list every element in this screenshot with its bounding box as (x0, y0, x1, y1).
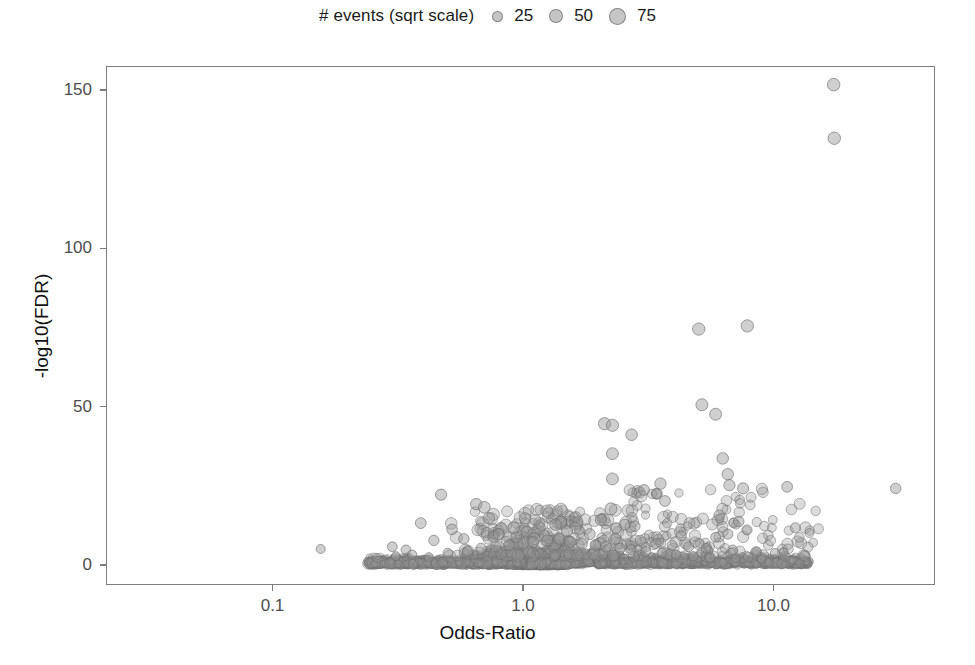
data-point (811, 506, 820, 515)
data-point (738, 483, 749, 494)
data-point (733, 516, 743, 526)
data-point (610, 534, 620, 544)
data-point (590, 540, 601, 551)
data-point (443, 548, 452, 557)
data-point (710, 408, 722, 420)
y-axis-tick (100, 406, 106, 407)
x-axis-tick-label: 1.0 (511, 596, 535, 616)
data-point (615, 543, 625, 553)
data-point (518, 538, 529, 549)
data-point (723, 529, 733, 539)
data-point (828, 132, 840, 144)
data-point (705, 484, 715, 494)
data-point (391, 552, 400, 561)
data-point (705, 553, 714, 562)
data-point (372, 553, 381, 562)
data-point (760, 521, 770, 531)
x-axis-tick (272, 585, 273, 591)
data-point (624, 484, 635, 495)
data-point (408, 559, 417, 568)
data-point (660, 496, 671, 507)
data-point (639, 485, 650, 496)
data-point (565, 536, 576, 547)
data-point (459, 534, 469, 544)
data-point (711, 532, 721, 542)
data-point (827, 78, 840, 91)
data-point (606, 419, 618, 431)
y-axis-tick-label: 50 (26, 397, 92, 417)
data-point (724, 480, 735, 491)
data-point (684, 542, 694, 552)
scatter-plot: 050100150 -log10(FDR) 0.11.010.0 Odds-Ra… (0, 0, 975, 665)
y-axis-tick (100, 564, 106, 565)
data-point (552, 506, 562, 516)
data-point (746, 492, 756, 502)
data-point (667, 540, 677, 550)
data-point (790, 523, 800, 533)
data-point (676, 531, 686, 541)
data-point (626, 429, 638, 441)
data-point (619, 519, 630, 530)
data-point (689, 552, 698, 561)
data-point (736, 499, 746, 509)
data-point (652, 488, 662, 498)
x-axis-tick-label: 10.0 (757, 596, 790, 616)
data-point (595, 514, 606, 525)
data-point (447, 524, 458, 535)
data-point (782, 481, 793, 492)
data-point (805, 529, 814, 538)
y-axis-tick (100, 89, 106, 90)
data-point (491, 541, 501, 551)
y-axis-tick-label: 150 (26, 80, 92, 100)
data-point (606, 473, 618, 485)
data-point (502, 506, 513, 517)
y-axis-tick-label: 100 (26, 238, 92, 258)
data-point (659, 521, 670, 532)
data-point (535, 549, 545, 559)
data-point (717, 547, 726, 556)
data-point (719, 558, 728, 567)
data-point (387, 542, 397, 552)
data-point (714, 510, 724, 520)
data-point (675, 489, 684, 498)
data-point (701, 543, 711, 553)
data-point (641, 547, 651, 557)
data-point (689, 530, 700, 541)
data-point (768, 515, 777, 524)
data-point (629, 521, 640, 532)
data-point (564, 549, 574, 559)
data-point (483, 513, 495, 525)
data-point (813, 524, 823, 534)
data-point (794, 533, 804, 543)
y-axis-tick (100, 248, 106, 249)
data-point (742, 525, 752, 535)
data-point (770, 548, 779, 557)
data-point (657, 548, 667, 558)
plot-panel (106, 66, 935, 585)
data-point (696, 399, 708, 411)
data-point (528, 537, 539, 548)
data-point (429, 535, 439, 545)
data-point (606, 448, 618, 460)
data-point (626, 505, 637, 516)
data-point (693, 323, 705, 335)
data-point (786, 504, 797, 515)
data-point (756, 483, 767, 494)
y-axis-label: -log10(FDR) (31, 273, 53, 378)
data-point (728, 545, 738, 555)
data-point (741, 320, 753, 332)
data-point (316, 544, 325, 553)
data-point (584, 529, 595, 540)
data-point (463, 547, 473, 557)
x-axis-tick (522, 585, 523, 591)
data-point (731, 554, 740, 563)
data-point (530, 514, 541, 525)
data-point (798, 550, 809, 561)
x-axis-tick (773, 585, 774, 591)
data-point (476, 543, 486, 553)
data-point (635, 535, 645, 545)
data-point (478, 501, 490, 513)
data-point (435, 489, 446, 500)
data-point (765, 536, 775, 546)
data-point (493, 529, 504, 540)
